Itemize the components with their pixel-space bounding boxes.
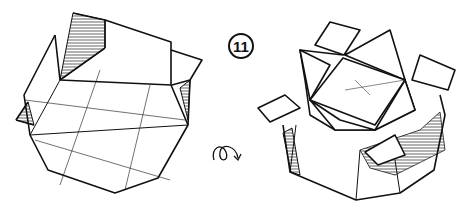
- origami-diagram: [0, 0, 470, 215]
- star-lid-box-figure: [258, 22, 455, 200]
- turn-over-icon: [213, 146, 241, 160]
- open-box-figure: [16, 13, 202, 193]
- step-number-badge: 11: [228, 33, 254, 59]
